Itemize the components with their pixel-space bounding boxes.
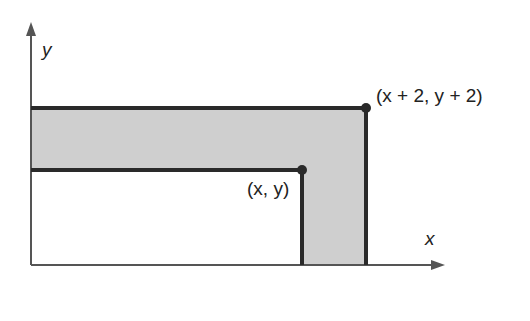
y-axis-label: y bbox=[40, 39, 53, 60]
inner-corner-point bbox=[297, 165, 307, 175]
inner-corner-label: (x, y) bbox=[247, 178, 289, 199]
l-shaped-region-diagram: y x (x + 2, y + 2) (x, y) bbox=[0, 0, 530, 321]
outer-corner-point bbox=[361, 103, 371, 113]
y-axis-arrow-icon bbox=[26, 22, 36, 36]
outer-corner-label: (x + 2, y + 2) bbox=[376, 85, 483, 106]
x-axis-label: x bbox=[424, 228, 436, 249]
shaded-border-region bbox=[31, 108, 366, 265]
x-axis-arrow-icon bbox=[431, 260, 445, 270]
